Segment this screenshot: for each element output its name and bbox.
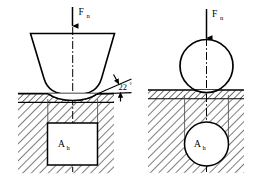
force-label-right-subscript: n <box>220 14 224 21</box>
force-label-right: F n <box>212 9 224 21</box>
angle-label-degree-symbol: ° <box>130 82 132 88</box>
force-label-right-symbol: F <box>212 9 217 19</box>
diagram-canvas: F n F n 22 ° A h A h <box>0 0 259 180</box>
bulk-material-left <box>18 102 114 173</box>
projected-area-label-left-symbol: A <box>58 139 65 149</box>
projected-area-label-right-symbol: A <box>194 139 201 149</box>
angle-label: 22 ° <box>119 82 132 93</box>
bulk-material-right <box>148 99 244 173</box>
force-label-left: F n <box>79 7 91 19</box>
hardness-test-diagram: F n F n 22 ° A h A h <box>0 0 259 180</box>
force-label-left-subscript: n <box>87 12 91 19</box>
force-label-left-symbol: F <box>79 7 84 17</box>
conical-indenter-panel <box>18 7 132 173</box>
angle-label-value: 22 <box>119 82 128 92</box>
